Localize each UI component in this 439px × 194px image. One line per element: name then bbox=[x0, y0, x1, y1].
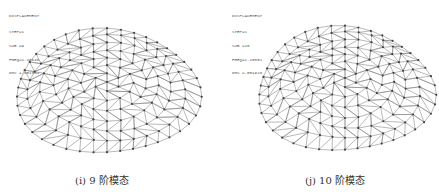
mesh-edge bbox=[418, 106, 431, 114]
mesh-edge bbox=[169, 101, 183, 108]
mesh-edge bbox=[178, 117, 181, 131]
mesh-edge bbox=[68, 122, 69, 135]
mesh-node bbox=[295, 127, 297, 129]
mesh-node bbox=[133, 53, 135, 55]
mesh-node bbox=[318, 148, 320, 150]
mesh-edge bbox=[371, 113, 372, 126]
mesh-edge bbox=[79, 30, 80, 39]
mesh-node bbox=[381, 84, 383, 86]
mesh-edge bbox=[399, 54, 401, 63]
mesh-edge bbox=[282, 138, 293, 144]
mesh-edge bbox=[382, 82, 394, 85]
mesh-edge bbox=[306, 135, 320, 147]
mesh-edge bbox=[81, 63, 93, 67]
mesh-edge bbox=[49, 56, 60, 58]
mesh-node bbox=[132, 82, 134, 84]
mesh-edge bbox=[144, 103, 152, 111]
mesh-edge bbox=[294, 82, 297, 91]
mesh-node bbox=[270, 77, 272, 79]
mesh-edge bbox=[290, 99, 302, 106]
mesh-edge bbox=[58, 50, 70, 53]
mesh-edge bbox=[383, 47, 393, 48]
mesh-edge bbox=[81, 104, 82, 115]
mesh-node bbox=[275, 68, 277, 70]
mesh-edge bbox=[431, 104, 435, 113]
mesh-edge bbox=[120, 92, 130, 98]
mesh-edge bbox=[319, 135, 320, 149]
mesh-edge bbox=[291, 55, 299, 62]
mesh-edge bbox=[295, 72, 308, 75]
mesh-edge bbox=[94, 52, 107, 58]
mesh-edge bbox=[345, 87, 357, 94]
mesh-edge bbox=[345, 117, 358, 128]
mesh-edge bbox=[294, 38, 298, 48]
mesh-edge bbox=[134, 45, 146, 50]
mesh-edge bbox=[405, 114, 413, 122]
mesh-edge bbox=[96, 78, 107, 82]
mesh-edge bbox=[299, 106, 311, 113]
mesh-node bbox=[106, 72, 108, 74]
mesh-edge bbox=[313, 88, 323, 93]
mesh-node bbox=[119, 67, 121, 69]
mesh-edge bbox=[371, 126, 372, 136]
mesh-node bbox=[145, 78, 147, 80]
mesh-node bbox=[119, 97, 121, 99]
mesh-edge bbox=[81, 63, 84, 74]
mesh-edge bbox=[107, 140, 120, 152]
mesh-edge bbox=[153, 65, 163, 67]
mesh-edge bbox=[319, 137, 332, 149]
mesh-node bbox=[156, 48, 158, 50]
mesh-edge bbox=[42, 139, 54, 145]
mesh-edge bbox=[357, 88, 366, 94]
mesh-edge bbox=[200, 97, 201, 107]
mesh-node bbox=[134, 37, 136, 39]
mesh-edge bbox=[393, 129, 395, 140]
mesh-edge bbox=[164, 109, 177, 116]
mesh-edge bbox=[94, 140, 107, 141]
mesh-node bbox=[331, 54, 333, 56]
mesh-edge bbox=[107, 131, 120, 140]
mesh-node bbox=[260, 84, 262, 86]
mesh-edge bbox=[69, 88, 74, 96]
mesh-edge bbox=[420, 96, 431, 114]
mesh-edge bbox=[146, 142, 158, 146]
mesh-node bbox=[43, 45, 45, 47]
mesh-node bbox=[83, 73, 85, 75]
mesh-edge bbox=[20, 115, 25, 124]
mesh-edge bbox=[356, 83, 367, 88]
mesh-node bbox=[93, 51, 95, 53]
mesh-edge bbox=[413, 114, 415, 129]
mesh-edge bbox=[73, 97, 81, 104]
mesh-edge bbox=[121, 109, 145, 110]
mesh-node bbox=[79, 38, 81, 40]
mesh-node bbox=[176, 116, 178, 118]
mesh-edge bbox=[345, 56, 358, 62]
mesh-edge bbox=[183, 108, 196, 116]
mesh-node bbox=[133, 44, 135, 46]
mesh-node bbox=[424, 67, 426, 69]
mesh-edge bbox=[94, 129, 107, 140]
mesh-node bbox=[80, 137, 82, 139]
mesh-node bbox=[40, 63, 42, 65]
mesh-edge bbox=[30, 108, 36, 117]
mesh-edge bbox=[319, 149, 332, 150]
mesh-edge bbox=[43, 101, 50, 109]
mesh-node bbox=[308, 56, 310, 58]
mesh-edge bbox=[308, 119, 309, 132]
mesh-edge bbox=[158, 76, 159, 85]
mesh-node bbox=[68, 51, 70, 53]
mesh-edge bbox=[84, 67, 94, 74]
mesh-node bbox=[331, 48, 333, 50]
mesh-edge bbox=[393, 73, 405, 80]
mesh-node bbox=[330, 32, 332, 34]
mesh-edge bbox=[319, 36, 320, 44]
mesh-edge bbox=[383, 115, 393, 122]
mesh-edge bbox=[383, 129, 395, 134]
mesh-edge bbox=[284, 91, 297, 98]
mesh-edge bbox=[285, 44, 298, 47]
mesh-edge bbox=[69, 83, 81, 89]
mesh-node bbox=[344, 106, 346, 108]
mesh-edge bbox=[183, 108, 189, 124]
mesh-edge bbox=[369, 51, 370, 60]
mesh-edge bbox=[121, 30, 134, 33]
